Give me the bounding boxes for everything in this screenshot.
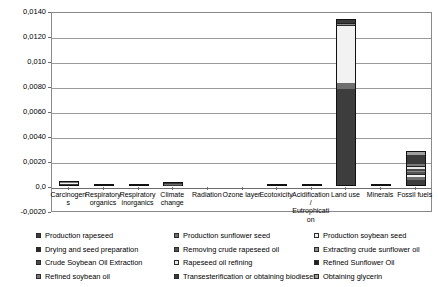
bar-segment [337, 89, 355, 185]
legend-item[interactable]: Drying and seed preparation [36, 245, 138, 254]
y-tick-label: 0,0 [0, 183, 46, 191]
y-tick-label: 0,0140 [0, 8, 46, 16]
legend-swatch-icon [36, 247, 41, 252]
y-tick-mark [48, 162, 51, 163]
bar-segment [337, 26, 355, 83]
bar-stack [336, 19, 356, 187]
x-tick-label: Climate change [153, 191, 192, 207]
bar-segment [60, 184, 78, 185]
y-tick-mark [48, 62, 51, 63]
legend-item[interactable]: Transesterification or obtaining biodies… [174, 272, 315, 281]
legend-item[interactable]: Production rapeseed [36, 231, 113, 240]
y-tick-mark [48, 87, 51, 88]
x-tick-mark [415, 187, 416, 190]
legend-label: Production sunflower seed [183, 231, 270, 240]
bar-segment [407, 155, 425, 164]
bar-column [59, 181, 79, 186]
legend-label: Obtaining glycerin [323, 272, 382, 281]
legend-item[interactable]: Extracting crude sunflower oil [314, 245, 420, 254]
bar-stack [406, 151, 426, 186]
legend-label: Rapeseed oil refining [183, 258, 252, 267]
legend-label: Production rapeseed [45, 231, 113, 240]
legend-item[interactable]: Refined Sunflower Oil [314, 258, 394, 267]
legend-label: Transesterification or obtaining biodies… [183, 272, 315, 281]
bar-stack [163, 182, 183, 186]
bar-stack [267, 184, 287, 186]
legend-swatch-icon [314, 274, 319, 279]
y-tick-label: 0,0120 [0, 33, 46, 41]
x-tick-label: Land use [326, 191, 365, 199]
x-tick-mark [242, 187, 243, 190]
x-tick-mark [172, 187, 173, 190]
x-tick-mark [207, 187, 208, 190]
y-tick-mark [48, 187, 51, 188]
stacked-bar-chart: 0,01400,01200,0100,00800,00600,00400,002… [0, 0, 438, 287]
x-tick-label: Respiratory inorganics [118, 191, 157, 207]
x-tick-mark [311, 187, 312, 190]
y-tick-mark [48, 137, 51, 138]
legend-swatch-icon [174, 247, 179, 252]
legend-swatch-icon [314, 247, 319, 252]
y-tick-mark [48, 12, 51, 13]
legend-label: Refined soybean oil [45, 272, 110, 281]
legend-label: Refined Sunflower Oil [323, 258, 394, 267]
x-tick-mark [68, 187, 69, 190]
bar-column [302, 184, 322, 186]
x-tick-label: Fossil fuels [395, 191, 434, 199]
y-tick-label: 0,0080 [0, 83, 46, 91]
x-tick-mark [138, 187, 139, 190]
bars-layer [52, 13, 431, 211]
y-tick-label: 0,010 [0, 58, 46, 66]
y-tick-label: 0,0040 [0, 133, 46, 141]
bar-stack [371, 184, 391, 186]
bar-column [336, 19, 356, 187]
legend-swatch-icon [36, 274, 41, 279]
x-tick-mark [276, 187, 277, 190]
bar-stack [59, 181, 79, 186]
y-tick-label: 0,0060 [0, 108, 46, 116]
x-tick-label: Minerals [361, 191, 400, 199]
bar-column [129, 184, 149, 186]
legend-label: Extracting crude sunflower oil [323, 245, 420, 254]
legend-swatch-icon [36, 233, 41, 238]
legend-label: Crude Soybean Oil Extraction [45, 258, 142, 267]
x-tick-label: Radiation [188, 191, 227, 199]
legend-item[interactable]: Rapeseed oil refining [174, 258, 252, 267]
y-tick-label: 0,0020 [0, 158, 46, 166]
bar-column [267, 184, 287, 186]
legend-label: Drying and seed preparation [45, 245, 138, 254]
legend-item[interactable]: Production soybean seed [314, 231, 406, 240]
bar-stack [129, 184, 149, 186]
bar-column [371, 184, 391, 186]
x-tick-mark [380, 187, 381, 190]
y-tick-mark [48, 112, 51, 113]
y-tick-mark [48, 212, 51, 213]
bar-column [406, 151, 426, 186]
legend-swatch-icon [174, 274, 179, 279]
legend-item[interactable]: Removing crude rapeseed oil [174, 245, 279, 254]
x-tick-label: Ozone layer [222, 191, 261, 199]
legend-item[interactable]: Production sunflower seed [174, 231, 270, 240]
legend-item[interactable]: Obtaining glycerin [314, 272, 382, 281]
bar-column [163, 182, 183, 186]
x-tick-mark [103, 187, 104, 190]
bar-stack [302, 184, 322, 186]
chart-legend: Production rapeseedProduction sunflower … [36, 231, 434, 285]
y-tick-mark [48, 37, 51, 38]
x-tick-mark [345, 187, 346, 190]
legend-swatch-icon [174, 260, 179, 265]
legend-item[interactable]: Crude Soybean Oil Extraction [36, 258, 142, 267]
x-tick-label: Respiratory organics [84, 191, 123, 207]
legend-swatch-icon [36, 260, 41, 265]
legend-label: Production soybean seed [323, 231, 406, 240]
legend-swatch-icon [314, 233, 319, 238]
legend-item[interactable]: Refined soybean oil [36, 272, 110, 281]
legend-label: Removing crude rapeseed oil [183, 245, 279, 254]
x-tick-label: Acidification/ Eutrophication [291, 191, 330, 224]
y-tick-label: -0,0020 [0, 208, 46, 216]
legend-swatch-icon [314, 260, 319, 265]
x-tick-label: Carcinogens [49, 191, 88, 207]
bar-stack [94, 184, 114, 186]
x-tick-label: Ecotoxicity [257, 191, 296, 199]
plot-area [51, 12, 432, 212]
